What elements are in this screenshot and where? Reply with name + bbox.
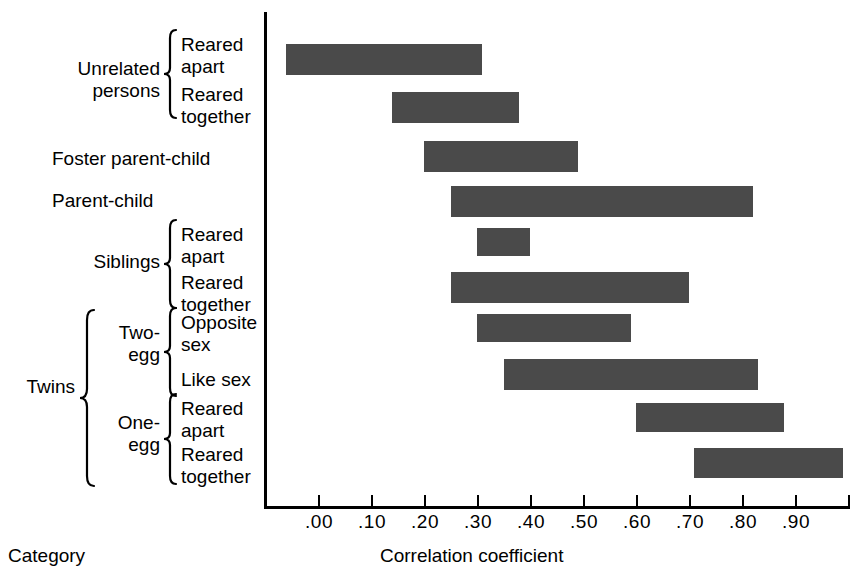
x-tick-label-7: .70 <box>660 511 720 533</box>
x-tick-label-6: .60 <box>607 511 667 533</box>
brace-one-egg <box>162 392 178 486</box>
x-tick-1 <box>371 495 373 507</box>
bar-unrelated-reared-apart <box>286 44 482 75</box>
label-oneegg-reared-apart: Reared apart <box>181 398 263 442</box>
x-tick-5 <box>583 495 585 507</box>
x-tick-7 <box>689 495 691 507</box>
label-unrelated-reared-apart: Reared apart <box>181 34 263 78</box>
label-foster-parent-child: Foster parent-child <box>52 148 210 170</box>
x-tick-6 <box>636 495 638 507</box>
x-tick-0 <box>318 495 320 507</box>
brace-unrelated-persons <box>162 28 178 120</box>
bar-unrelated-reared-together <box>392 92 519 123</box>
label-siblings-reared-apart: Reared apart <box>181 224 263 268</box>
label-unrelated-persons: Unrelated persons <box>45 58 160 102</box>
label-parent-child: Parent-child <box>52 190 153 212</box>
x-tick-label-0: .00 <box>289 511 349 533</box>
brace-siblings <box>162 218 178 310</box>
brace-twins <box>78 308 96 488</box>
x-tick-end <box>848 495 850 507</box>
bar-twins-twoegg-opposite-sex <box>477 314 631 342</box>
x-tick-4 <box>530 495 532 507</box>
bar-parent-child <box>451 186 753 217</box>
x-tick-label-2: .20 <box>395 511 455 533</box>
x-tick-8 <box>742 495 744 507</box>
x-axis-line <box>264 506 850 509</box>
x-tick-label-1: .10 <box>342 511 402 533</box>
label-siblings-reared-together: Reared together <box>181 272 271 316</box>
brace-two-egg <box>162 306 178 398</box>
label-unrelated-reared-together: Reared together <box>181 84 271 128</box>
chart-figure: .00 .10 .20 .30 .40 .50 .60 .70 .80 .90 … <box>0 0 867 583</box>
bar-foster-parent-child <box>424 141 578 172</box>
x-tick-3 <box>477 495 479 507</box>
x-tick-label-5: .50 <box>554 511 614 533</box>
label-twoegg-opposite-sex: Opposite sex <box>181 312 273 356</box>
x-axis-title: Correlation coefficient <box>380 545 563 567</box>
x-tick-2 <box>424 495 426 507</box>
bar-twins-twoegg-like-sex <box>504 359 758 390</box>
x-tick-label-9: .90 <box>766 511 826 533</box>
label-twoegg-like-sex: Like sex <box>181 369 273 391</box>
bar-siblings-reared-together <box>451 272 690 303</box>
x-tick-label-8: .80 <box>713 511 773 533</box>
x-tick-label-4: .40 <box>501 511 561 533</box>
x-tick-9 <box>795 495 797 507</box>
x-tick-label-3: .30 <box>448 511 508 533</box>
category-caption: Category <box>8 545 85 567</box>
label-twins: Twins <box>10 376 75 398</box>
label-siblings: Siblings <box>45 251 160 273</box>
bar-twins-oneegg-reared-apart <box>636 403 784 432</box>
bar-twins-oneegg-reared-together <box>694 448 842 478</box>
bar-siblings-reared-apart <box>477 228 530 256</box>
label-oneegg-reared-together: Reared together <box>181 444 271 488</box>
